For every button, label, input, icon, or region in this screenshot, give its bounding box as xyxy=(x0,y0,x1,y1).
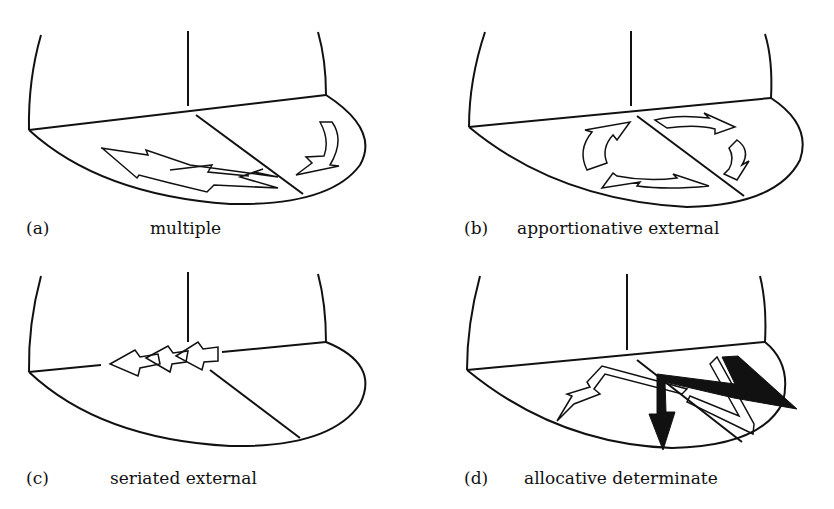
panel-label: allocative determinate xyxy=(524,468,718,488)
panel-label: apportionative external xyxy=(517,218,719,238)
panel-letter: (d) xyxy=(464,468,488,488)
panel-letter: (c) xyxy=(26,468,49,488)
panel-c: (c) seriated external xyxy=(0,254,417,508)
panel-a: (a) multiple xyxy=(0,0,417,254)
panel-letter: (a) xyxy=(26,218,49,238)
panel-d: (d) allocative determinate xyxy=(417,254,834,508)
panel-label: seriated external xyxy=(110,468,257,488)
diagram-a xyxy=(0,0,417,254)
panel-letter: (b) xyxy=(464,218,488,238)
panel-label: multiple xyxy=(150,218,221,238)
panel-b: (b) apportionative external xyxy=(417,0,834,254)
diagram-b xyxy=(417,0,834,254)
